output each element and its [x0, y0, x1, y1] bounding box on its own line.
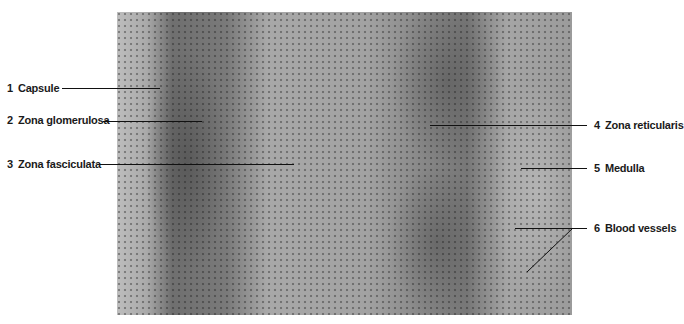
- label-blood-vessels: 6Blood vessels: [594, 222, 676, 234]
